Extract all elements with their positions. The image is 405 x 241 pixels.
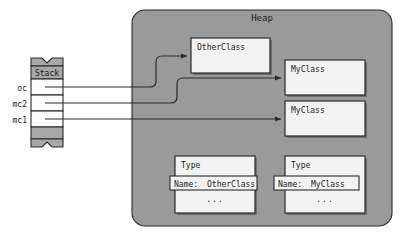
heap-type-object-otherclass[interactable]: Type Name: OtherClass ... [170,156,257,215]
heap-object-otherclass[interactable]: OtherClass [191,38,272,75]
type-myclass-name-key: Name: [278,180,302,189]
stack-torn-top [31,58,63,66]
type-myclass-more: ... [316,195,333,204]
heap-object-myclass-2[interactable]: MyClass [285,101,367,138]
heap-object-myclass-1[interactable]: MyClass [285,60,367,97]
myclass1-box-label: MyClass [291,65,325,74]
type-otherclass-name-key: Name: [174,180,198,189]
heap-type-object-myclass[interactable]: Type Name: MyClass ... [274,156,367,215]
stack-var-label-mc2: mc2 [13,100,28,109]
stack-heap-diagram: Heap Stack oc mc2 mc1 OtherClass [0,0,405,241]
type-otherclass-more: ... [206,195,223,204]
stack-label: Stack [35,69,59,78]
otherclass-box-label: OtherClass [197,43,245,52]
type-myclass-name-value: MyClass [311,180,345,189]
stack-footer-cell [31,127,63,139]
myclass2-box-label: MyClass [291,106,325,115]
type-otherclass-name-value: OtherClass [207,180,255,189]
type-otherclass-label: Type [181,161,200,170]
heap-label: Heap [251,13,273,23]
stack-var-label-oc: oc [17,84,27,93]
stack-torn-bottom [31,139,63,147]
stack-var-label-mc1: mc1 [13,116,28,125]
diagram-root: Heap Stack oc mc2 mc1 OtherClass [0,0,405,241]
type-myclass-label: Type [291,161,310,170]
